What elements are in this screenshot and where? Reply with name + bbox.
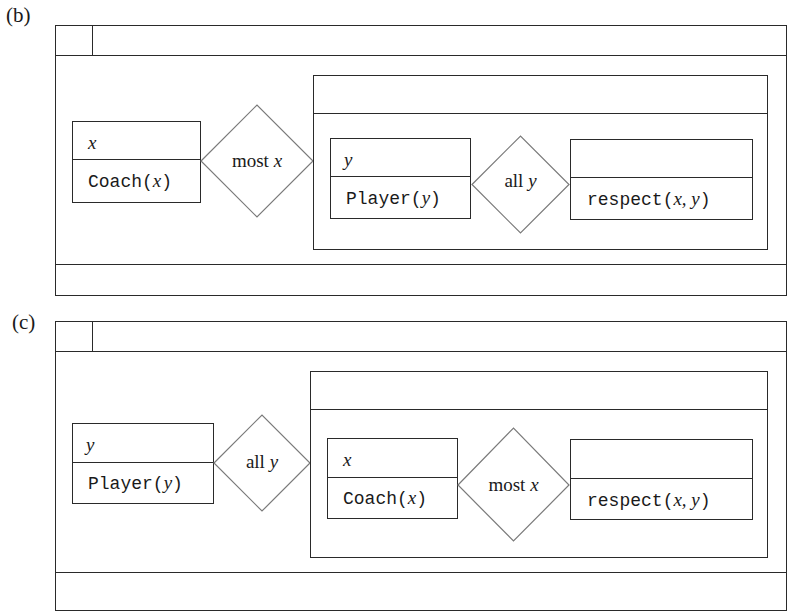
quantifier-word: all bbox=[504, 170, 523, 191]
predicate-args: y bbox=[164, 472, 172, 493]
predicate-args: y bbox=[422, 187, 430, 208]
quantifier-label-c-outer: all y bbox=[213, 452, 311, 471]
quantifier-var: x bbox=[274, 150, 282, 171]
scope-divider-b bbox=[570, 177, 753, 178]
predicate-args: x bbox=[153, 170, 161, 191]
quantifier-var: y bbox=[528, 170, 536, 191]
condition-c-outer: Player(y) bbox=[88, 473, 183, 493]
scope-condition-b: respect(x, y) bbox=[587, 189, 711, 209]
referent-b-inner: y bbox=[344, 150, 352, 169]
predicate-args: x, y bbox=[673, 489, 699, 510]
restrictor-divider-b-inner bbox=[330, 176, 471, 177]
condition-b-outer: Coach(x) bbox=[88, 171, 172, 191]
restrictor-divider-c-outer bbox=[72, 462, 214, 463]
outer-universe-separator-b bbox=[92, 25, 93, 56]
outer-universe-divider-c bbox=[55, 351, 787, 352]
panel-label-c: (c) bbox=[12, 312, 35, 333]
predicate-name: Player bbox=[346, 189, 411, 209]
panel-label-b: (b) bbox=[6, 5, 31, 26]
predicate-name: Coach bbox=[88, 172, 142, 192]
quantifier-var: x bbox=[530, 474, 538, 495]
condition-b-inner: Player(y) bbox=[346, 188, 441, 208]
quantifier-word: most bbox=[488, 474, 525, 495]
outer-universe-separator-c bbox=[92, 321, 93, 352]
outer-universe-divider-b bbox=[55, 55, 787, 56]
referent-c-inner: x bbox=[343, 450, 351, 469]
predicate-name: Coach bbox=[343, 489, 397, 509]
outer-footer-divider-c bbox=[55, 572, 787, 573]
predicate-name: respect bbox=[587, 491, 663, 511]
restrictor-divider-b-outer bbox=[72, 159, 201, 160]
quantifier-label-c-inner: most x bbox=[457, 475, 570, 494]
scope-divider-c bbox=[570, 478, 753, 479]
outer-footer-divider-b bbox=[55, 264, 787, 265]
nested-universe-divider-b bbox=[313, 113, 768, 114]
predicate-args: x, y bbox=[673, 188, 699, 209]
predicate-name: respect bbox=[587, 190, 663, 210]
condition-c-inner: Coach(x) bbox=[343, 488, 427, 508]
referent-c-outer: y bbox=[86, 435, 94, 454]
quantifier-label-b-inner: all y bbox=[471, 171, 570, 190]
quantifier-label-b-outer: most x bbox=[200, 151, 314, 170]
restrictor-divider-c-inner bbox=[327, 477, 458, 478]
quantifier-var: y bbox=[270, 451, 278, 472]
quantifier-word: most bbox=[232, 150, 269, 171]
predicate-name: Player bbox=[88, 474, 153, 494]
referent-b-outer: x bbox=[88, 133, 96, 152]
predicate-args: x bbox=[408, 487, 416, 508]
scope-condition-c: respect(x, y) bbox=[587, 490, 711, 510]
quantifier-word: all bbox=[246, 451, 265, 472]
nested-universe-divider-c bbox=[310, 409, 768, 410]
